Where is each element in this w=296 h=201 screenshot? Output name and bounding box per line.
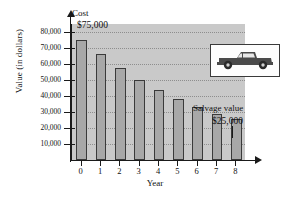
y-axis-tick-label: 30,000: [1, 107, 61, 116]
salvage-label: Salvage value: [193, 103, 243, 113]
y-axis-tick-label: 10,000: [1, 139, 61, 148]
x-axis-tick-label: 3: [132, 166, 146, 176]
x-axis-tick-label: 5: [170, 166, 184, 176]
bar: [173, 99, 184, 160]
y-axis-tick-label: 70,000: [1, 43, 61, 52]
bar: [192, 107, 203, 160]
y-axis-tick: [64, 96, 75, 97]
x-axis-tick-label: 0: [74, 166, 88, 176]
x-axis-tick-label: 6: [190, 166, 204, 176]
y-axis-tick-label: 80,000: [1, 27, 61, 36]
x-axis-arrow-icon: [255, 156, 262, 164]
x-axis-line: [70, 160, 256, 161]
y-axis-tick: [64, 64, 75, 65]
y-axis-tick: [64, 144, 75, 145]
y-axis-tick-label: 40,000: [1, 91, 61, 100]
x-axis-tick-label: 8: [228, 166, 242, 176]
bar: [154, 90, 165, 160]
depreciation-bar-chart: Value (in dollars) Year Cost $75,000 Sal…: [0, 0, 296, 201]
bar: [134, 80, 145, 160]
x-axis-title: Year: [60, 178, 250, 188]
cost-annotation: $75,000: [77, 20, 108, 30]
y-axis-line: [70, 16, 71, 162]
bar: [115, 68, 126, 160]
y-axis-tick-label: 20,000: [1, 123, 61, 132]
bar: [76, 40, 87, 160]
y-axis-tick-label: 50,000: [1, 75, 61, 84]
pickup-truck-icon: [210, 44, 280, 77]
bar: [96, 54, 107, 160]
y-axis-arrow-icon: [67, 10, 75, 17]
y-axis-tick: [64, 80, 75, 81]
y-axis-tick-label: 60,000: [1, 59, 61, 68]
y-axis-tick: [64, 128, 75, 129]
x-axis-tick-label: 1: [93, 166, 107, 176]
gridline: [72, 32, 245, 33]
y-axis-tick: [64, 32, 75, 33]
x-axis-tick-label: 4: [151, 166, 165, 176]
x-axis-tick-label: 7: [209, 166, 223, 176]
x-axis-tick-label: 2: [112, 166, 126, 176]
salvage-leader-line: [232, 126, 233, 138]
salvage-annotation: $25,000: [212, 116, 243, 126]
y-axis-tick: [64, 48, 75, 49]
y-axis-tick: [64, 112, 75, 113]
